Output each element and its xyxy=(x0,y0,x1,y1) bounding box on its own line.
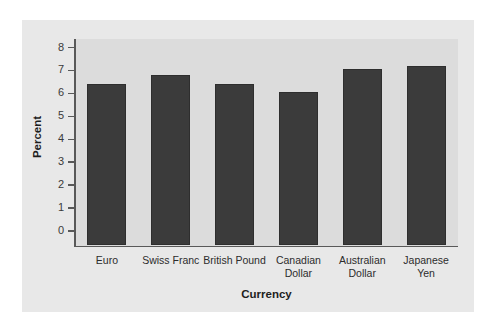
x-axis-title: Currency xyxy=(75,288,458,300)
x-axis-line xyxy=(74,246,458,248)
y-axis-tick xyxy=(68,161,75,163)
x-axis-tick-label: Japanese Yen xyxy=(394,254,458,279)
bar xyxy=(87,84,126,245)
x-axis-tick-label: Euro xyxy=(75,254,139,267)
y-axis-tick-label: 5 xyxy=(42,110,64,121)
y-axis-tick-label: 6 xyxy=(42,87,64,98)
y-axis-tick-label: 2 xyxy=(42,179,64,190)
y-axis-tick xyxy=(68,207,75,209)
bar xyxy=(151,75,190,245)
y-axis-tick-label: 7 xyxy=(42,64,64,75)
y-axis-tick xyxy=(68,47,75,49)
plot-area xyxy=(75,39,458,246)
y-axis-tick-label: 8 xyxy=(42,42,64,53)
y-axis-tick-label: 3 xyxy=(42,156,64,167)
y-axis-title: Percent xyxy=(31,92,43,182)
x-axis-tick-label: Swiss Franc xyxy=(139,254,203,267)
bar xyxy=(279,92,318,245)
x-axis-tick-label: Australian Dollar xyxy=(330,254,394,279)
y-axis-tick xyxy=(68,230,75,232)
bar xyxy=(407,66,446,246)
y-axis-tick xyxy=(68,139,75,141)
bar xyxy=(343,69,382,245)
x-axis-tick-label: British Pound xyxy=(203,254,267,267)
y-axis-tick xyxy=(68,184,75,186)
chart-figure: 012345678 EuroSwiss FrancBritish PoundCa… xyxy=(0,0,496,331)
y-axis-tick xyxy=(68,116,75,118)
y-axis-tick-label: 4 xyxy=(42,133,64,144)
y-axis-tick xyxy=(68,70,75,72)
x-axis-tick-label: Canadian Dollar xyxy=(267,254,331,279)
bar xyxy=(215,84,254,245)
y-axis-tick-label: 0 xyxy=(42,225,64,236)
y-axis-tick-label: 1 xyxy=(42,202,64,213)
y-axis-tick xyxy=(68,93,75,95)
